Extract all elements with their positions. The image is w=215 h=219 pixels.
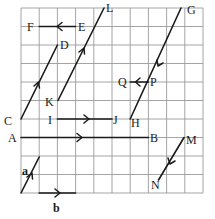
vector-mn	[159, 138, 185, 181]
label-n: N	[151, 178, 160, 192]
label-m: M	[186, 133, 197, 147]
label-i: I	[48, 113, 52, 127]
vector-b	[39, 189, 75, 197]
label-j: J	[113, 113, 118, 127]
label-b-point: B	[150, 131, 158, 145]
label-vector-b: b	[53, 201, 60, 215]
label-e: E	[78, 20, 85, 34]
diagram-canvas: F E D C L K G H Q P I J A B M N a b	[0, 0, 215, 219]
label-p: P	[150, 75, 157, 89]
label-g: G	[187, 3, 196, 17]
label-a-point: A	[8, 131, 17, 145]
label-c: C	[4, 114, 12, 128]
label-vector-a: a	[22, 164, 28, 178]
label-d: D	[60, 38, 69, 52]
label-q: Q	[118, 75, 127, 89]
vector-grid-diagram: F E D C L K G H Q P I J A B M N a b	[0, 0, 215, 219]
label-l: L	[106, 1, 113, 15]
vector-ab	[21, 134, 148, 142]
label-h: H	[131, 116, 140, 130]
vector-ij	[57, 115, 112, 123]
label-k: K	[45, 95, 54, 109]
label-f: F	[27, 20, 34, 34]
